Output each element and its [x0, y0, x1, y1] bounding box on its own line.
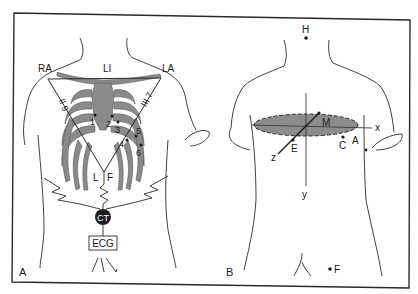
ct-label: CT [97, 213, 109, 223]
label-l: L [93, 172, 99, 183]
legs-divide [294, 253, 311, 276]
torso-right-outline [166, 140, 176, 268]
label-z: z [271, 152, 276, 163]
point-m [317, 111, 320, 114]
label-f: F [334, 264, 340, 275]
point-e [291, 138, 294, 141]
label-ra: RA [38, 63, 52, 74]
right-arm-stub [185, 130, 209, 146]
right-shoulder-outline [162, 70, 196, 130]
label-a: A [352, 135, 359, 146]
label-f: F [107, 172, 113, 183]
panel-a-label: A [19, 266, 27, 278]
panel-b-label: B [226, 266, 233, 278]
panel-b [229, 40, 402, 276]
torso-left-outline [244, 115, 256, 270]
label-y: y [302, 189, 307, 200]
electrode-4: 4 [119, 139, 124, 149]
neck-outline-right [127, 38, 162, 70]
lead-iii-label: III 7 [139, 91, 155, 109]
electrode-1: 1 [90, 117, 95, 127]
label-m: M [322, 117, 330, 128]
resistor-network [44, 176, 168, 209]
electrode-6: 6 [136, 148, 141, 158]
point-c [341, 135, 344, 138]
electrode-2: 2 [106, 119, 111, 129]
neck-outline-left [56, 38, 83, 70]
electrode-5: 5 [136, 126, 141, 136]
figure: CT ECG RA LI LA L F II 9 III 7 1 2 3 4 5… [0, 0, 418, 294]
frame [12, 13, 410, 288]
ecg-label: ECG [92, 238, 114, 249]
label-li: LI [103, 63, 111, 74]
left-shoulder-outline [24, 70, 56, 145]
torso-left-outline [38, 135, 44, 268]
label-la: LA [162, 63, 175, 74]
lead-ii-label: II 9 [57, 97, 71, 112]
label-c: C [339, 140, 346, 151]
leg-divide [92, 258, 117, 272]
point-h [304, 36, 308, 40]
label-h: H [302, 24, 309, 35]
point-f [328, 267, 332, 271]
label-x: x [375, 122, 380, 133]
point-a [365, 149, 368, 152]
torso-right-outline [364, 115, 382, 276]
rib-cage [62, 83, 144, 190]
left-arm-stub [229, 128, 250, 150]
label-e: E [291, 143, 298, 154]
electrode-3: 3 [115, 125, 120, 135]
right-arm-stub [372, 134, 402, 150]
neck-outline-left [231, 40, 286, 128]
